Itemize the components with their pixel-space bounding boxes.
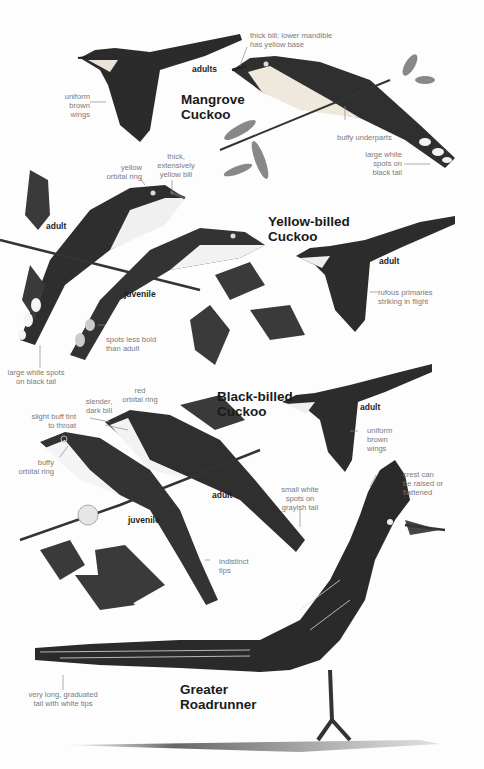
annotation-line: thick bill; lower mandible <box>250 31 332 40</box>
annotation-mangrove-wings: uniformbrownwings <box>58 92 90 119</box>
annotation-line: wings <box>367 444 392 453</box>
annotation-line: orbital ring <box>14 467 54 476</box>
annotation-line: grayish tail <box>279 503 321 512</box>
species-name-line1: Black-billed <box>217 389 293 404</box>
annotation-line: orbital ring <box>118 395 162 404</box>
annotation-yb-bill: thick,extensivelyyellow bill <box>154 152 198 179</box>
annotation-line: be raised or <box>403 479 443 488</box>
annotation-line: buffy <box>14 458 54 467</box>
annotation-line: flattened <box>403 488 443 497</box>
annotation-bb-buffy-orbital-ring: buffyorbital ring <box>14 458 54 476</box>
annotation-line: than adult <box>106 344 156 353</box>
species-name-line1: Mangrove <box>181 92 245 107</box>
field-guide-page: Mangrove Cuckoo Yellow-billed Cuckoo Bla… <box>0 0 484 769</box>
annotation-line: yellow bill <box>154 170 198 179</box>
annotation-line: very long, graduated <box>22 690 104 699</box>
species-name-line2: Cuckoo <box>217 404 293 419</box>
annotation-line: brown <box>58 101 90 110</box>
annotation-line: large white <box>365 150 402 159</box>
annotation-line: tail with white tips <box>22 699 104 708</box>
age-label-yb-juvenile: juvenile <box>124 289 156 299</box>
annotation-line: thick, <box>154 152 198 161</box>
annotation-line: striking in flight <box>378 297 432 306</box>
annotation-line: crest can <box>403 470 443 479</box>
annotation-line: dark bill <box>84 406 114 415</box>
species-title-yellow-billed-cuckoo: Yellow-billed Cuckoo <box>268 214 350 244</box>
annotation-line: red <box>118 386 162 395</box>
age-label-yb-adult-perched: adult <box>46 221 66 231</box>
mangrove-cuckoo-flight-illustration <box>78 34 242 142</box>
age-label-bb-adult-flight: adult <box>360 402 380 412</box>
species-name-line1: Yellow-billed <box>268 214 350 229</box>
annotation-roadrunner-crest: crest canbe raised orflattened <box>403 470 443 497</box>
annotation-line: yellow <box>98 163 142 172</box>
annotation-line: spots on <box>365 159 402 168</box>
age-label-yb-adult-flight: adult <box>379 256 399 266</box>
species-title-greater-roadrunner: Greater Roadrunner <box>180 682 257 712</box>
annotation-line: buffy underparts <box>337 133 392 142</box>
mangrove-cuckoo-perched-illustration <box>220 52 455 180</box>
annotation-yb-tail: large white spotson black tail <box>6 368 66 386</box>
annotation-bb-juvenile-tips: indistincttips <box>219 557 249 575</box>
annotation-line: black tail <box>365 168 402 177</box>
annotation-yb-juvenile-spots: spots less boldthan adult <box>106 335 156 353</box>
annotation-line: uniform <box>58 92 90 101</box>
annotation-bb-throat: slight buff tintto throat <box>24 412 76 430</box>
annotation-yb-orbital-ring: yelloworbital ring <box>98 163 142 181</box>
annotation-line: slender, <box>84 397 114 406</box>
annotation-line: wings <box>58 110 90 119</box>
annotation-bb-tail: small whitespots ongrayish tail <box>279 485 321 512</box>
black-billed-cuckoo-flight-illustration <box>282 364 432 472</box>
species-name-line1: Greater <box>180 682 257 697</box>
annotation-line: spots less bold <box>106 335 156 344</box>
age-label-mangrove-adults: adults <box>192 64 217 74</box>
annotation-line: has yellow base <box>250 40 332 49</box>
annotation-line: orbital ring <box>98 172 142 181</box>
annotation-mangrove-underparts: buffy underparts <box>337 133 392 142</box>
annotation-line: on black tail <box>6 377 66 386</box>
annotation-bb-bill: slender,dark bill <box>84 397 114 415</box>
species-title-black-billed-cuckoo: Black-billed Cuckoo <box>217 389 293 419</box>
annotation-line: to throat <box>24 421 76 430</box>
age-label-bb-juvenile: juvenile <box>128 515 160 525</box>
annotation-line: small white <box>279 485 321 494</box>
annotation-line: brown <box>367 435 392 444</box>
annotation-bb-wings: uniformbrownwings <box>367 426 392 453</box>
species-name-line2: Cuckoo <box>181 107 245 122</box>
species-name-line2: Cuckoo <box>268 229 350 244</box>
species-name-line2: Roadrunner <box>180 697 257 712</box>
age-label-bb-adult-perched: adult <box>212 490 232 500</box>
annotation-line: slight buff tint <box>24 412 76 421</box>
annotation-mangrove-tail: large whitespots onblack tail <box>365 150 402 177</box>
annotation-line: large white spots <box>6 368 66 377</box>
annotation-line: spots on <box>279 494 321 503</box>
annotation-line: rufous primaries <box>378 288 432 297</box>
annotation-line: uniform <box>367 426 392 435</box>
species-title-mangrove-cuckoo: Mangrove Cuckoo <box>181 92 245 122</box>
annotation-line: tips <box>219 566 249 575</box>
annotation-bb-red-orbital-ring: redorbital ring <box>118 386 162 404</box>
annotation-mangrove-bill: thick bill; lower mandiblehas yellow bas… <box>250 31 332 49</box>
annotation-roadrunner-tail: very long, graduatedtail with white tips <box>22 690 104 708</box>
annotation-yb-primaries: rufous primariesstriking in flight <box>378 288 432 306</box>
annotation-line: indistinct <box>219 557 249 566</box>
annotation-line: extensively <box>154 161 198 170</box>
